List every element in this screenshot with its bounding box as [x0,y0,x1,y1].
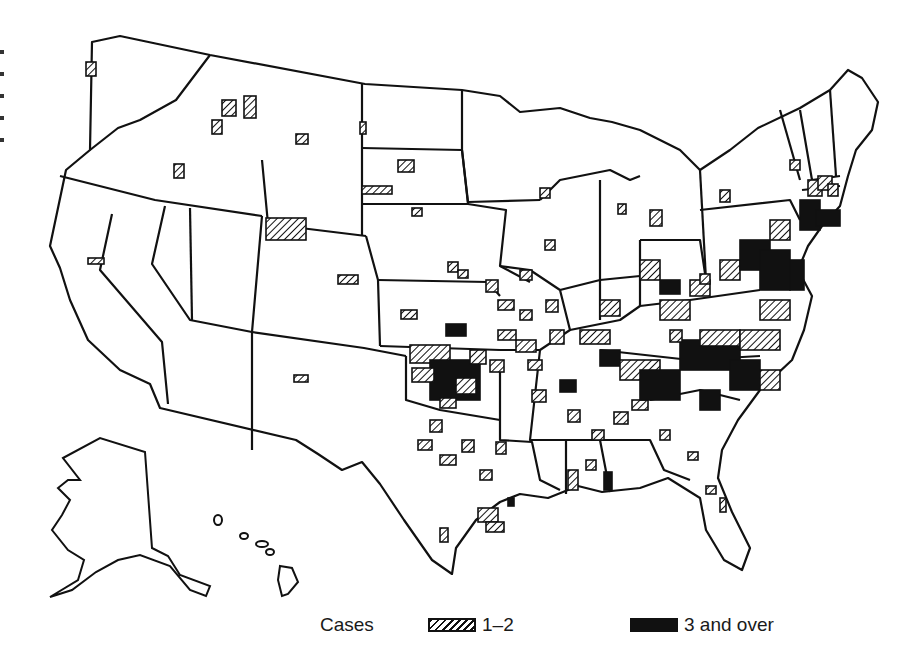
county-marker-3-and-over [604,472,612,490]
county-marker-1-2 [700,330,740,346]
county-marker-1-2 [770,220,790,240]
county-marker-1-2 [296,134,308,144]
county-marker-1-2 [740,330,780,350]
county-marker-1-2 [688,452,698,460]
us-map [0,0,918,672]
county-marker-1-2 [294,375,308,382]
county-marker-1-2 [418,440,432,450]
county-marker-1-2 [448,262,458,272]
county-marker-3-and-over [816,210,840,226]
county-marker-1-2 [600,300,620,316]
county-marker-1-2 [412,208,422,216]
county-marker-1-2 [632,400,648,410]
county-marker-3-and-over [760,250,790,290]
county-marker-1-2 [650,210,662,226]
county-marker-1-2 [462,440,474,452]
county-marker-1-2 [720,260,740,280]
county-marker-1-2 [760,300,790,320]
legend: Cases 1–2 3 and over [320,612,840,642]
county-marker-1-2 [568,470,578,490]
hatched-swatch-icon [428,618,476,632]
county-marker-1-2 [618,204,626,214]
county-marker-1-2 [670,330,682,342]
legend-label-3-and-over: 3 and over [684,614,774,636]
county-marker-1-2 [266,218,306,240]
state-outlines [50,36,878,574]
county-marker-1-2 [440,398,456,408]
county-marker-1-2 [546,300,558,312]
county-marker-1-2 [470,350,486,364]
county-marker-3-and-over [660,280,680,294]
county-marker-1-2 [496,442,506,454]
legend-title: Cases [320,614,374,636]
county-marker-1-2 [430,420,442,432]
county-marker-1-2 [520,270,532,280]
county-marker-1-2 [88,258,104,264]
county-marker-1-2 [545,240,555,250]
county-marker-1-2 [706,486,716,494]
county-marker-1-2 [222,100,236,116]
county-marker-1-2 [660,300,690,320]
county-marker-3-and-over [446,324,466,336]
county-marker-1-2 [532,390,546,402]
county-marker-1-2 [614,412,628,424]
county-marker-1-2 [490,360,504,372]
county-marker-1-2 [700,274,710,284]
county-marker-1-2 [660,430,670,440]
county-marker-1-2 [412,368,434,382]
county-marker-1-2 [720,498,726,512]
legend-item-3-and-over: 3 and over [630,614,774,636]
county-marker-1-2 [592,430,604,440]
county-marker-3-and-over [560,380,576,392]
county-marker-1-2 [580,330,610,344]
county-marker-1-2 [86,62,96,76]
county-marker-1-2 [760,370,780,390]
county-marker-3-and-over [600,350,620,366]
county-marker-1-2 [480,470,492,480]
county-marker-1-2 [486,280,498,292]
county-marker-1-2 [520,310,532,320]
county-marker-1-2 [398,160,414,172]
county-marker-3-and-over [508,498,514,506]
alaska-outline [50,438,210,597]
county-marker-1-2 [568,410,580,422]
county-marker-1-2 [540,188,550,198]
county-marker-1-2 [440,455,456,465]
county-marker-3-and-over [640,370,680,400]
county-marker-1-2 [498,300,514,310]
county-marker-3-and-over [700,390,720,410]
legend-item-1-2: 1–2 [428,614,514,636]
county-marker-1-2 [720,190,730,202]
county-marker-1-2 [440,528,448,542]
county-marker-1-2 [498,330,516,340]
county-marker-1-2 [640,260,660,280]
legend-label-1-2: 1–2 [482,614,514,636]
solid-swatch-icon [630,618,678,632]
county-marker-1-2 [516,340,536,352]
county-marker-1-2 [174,164,184,178]
county-marker-1-2 [456,378,476,394]
county-marker-1-2 [360,122,366,134]
county-marker-1-2 [550,330,564,344]
county-marker-1-2 [212,120,222,134]
county-marker-1-2 [244,96,256,118]
county-marker-1-2 [458,270,468,278]
county-marker-1-2 [338,275,358,284]
county-marker-3-and-over [730,360,760,390]
county-marker-1-2 [362,186,392,194]
county-marker-1-2 [528,360,542,370]
clipped-side-caption [0,36,6,156]
county-marker-1-2 [586,460,596,470]
county-marker-1-2 [401,310,417,319]
county-marker-1-2 [790,160,800,170]
hawaii-outline [214,515,298,596]
county-marker-1-2 [478,508,498,522]
county-marker-1-2 [486,522,504,532]
county-marker-3-and-over [790,260,804,290]
county-marker-1-2 [828,184,838,196]
